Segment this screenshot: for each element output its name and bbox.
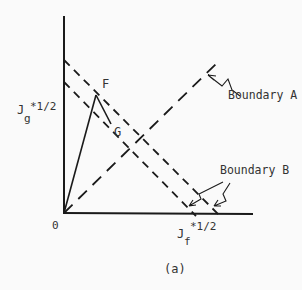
origin-label: 0 [52, 219, 59, 232]
flooding-diagram: F G Boundary A Boundary B 0 J g *1/2 J f… [0, 0, 302, 290]
x-axis-label-superscript: *1/2 [190, 220, 217, 233]
boundary-a-label: Boundary A [228, 88, 297, 102]
x-axis-label-subscript: f [184, 235, 191, 248]
point-f-label: F [102, 77, 109, 91]
y-axis-label-subscript: g [24, 112, 31, 125]
point-g-label: G [114, 125, 121, 139]
boundary-b-pointer-2 [214, 183, 230, 206]
vector-o-f [64, 95, 96, 213]
figure-caption: (a) [164, 262, 186, 276]
y-axis-label-superscript: *1/2 [30, 100, 57, 113]
vector-f-g [96, 95, 111, 124]
x-axis [63, 213, 253, 214]
boundary-b-label: Boundary B [220, 163, 289, 177]
